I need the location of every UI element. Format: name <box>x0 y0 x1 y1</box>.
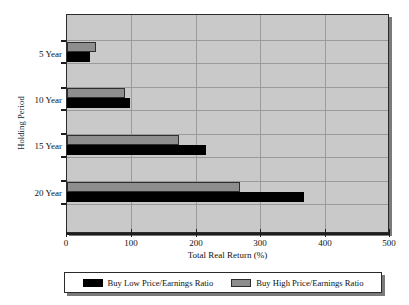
legend-swatch-low-pe-icon <box>83 279 103 287</box>
x-tick-label-200: 200 <box>176 238 216 248</box>
x-tick-mark <box>66 229 67 237</box>
chart-figure: Holding Period 5 Year 10 Year 15 Year 20… <box>0 0 409 305</box>
bar-high-pe-20-year <box>67 182 240 192</box>
y-tick-label-10-year: 10 Year <box>4 95 62 105</box>
gridline-horizontal <box>67 204 388 205</box>
bar-low-pe-20-year <box>67 192 304 202</box>
x-tick-mark <box>196 229 197 237</box>
legend-label-low-pe: Buy Low Price/Earnings Ratio <box>108 278 214 288</box>
y-tick-label-15-year: 15 Year <box>4 141 62 151</box>
y-tick-label-20-year: 20 Year <box>4 188 62 198</box>
bar-high-pe-5-year <box>67 42 96 52</box>
gridline-horizontal <box>67 157 388 158</box>
gridline-horizontal <box>67 40 388 41</box>
bar-low-pe-10-year <box>67 98 130 108</box>
legend-item-high-pe: Buy High Price/Earnings Ratio <box>231 278 363 288</box>
x-tick-mark <box>389 229 390 237</box>
x-tick-label-100: 100 <box>111 238 151 248</box>
gridline-horizontal <box>67 110 388 111</box>
legend-label-high-pe: Buy High Price/Earnings Ratio <box>256 278 363 288</box>
legend-item-low-pe: Buy Low Price/Earnings Ratio <box>83 278 214 288</box>
x-tick-label-0: 0 <box>46 238 86 248</box>
plot-area <box>66 14 389 233</box>
y-tick-label-group: 5 Year 10 Year 15 Year 20 Year <box>0 0 62 232</box>
x-tick-label-500: 500 <box>369 238 409 248</box>
bar-high-pe-10-year <box>67 88 125 98</box>
x-tick-label-400: 400 <box>305 238 345 248</box>
x-axis-title: Total Real Return (%) <box>66 250 389 260</box>
bar-low-pe-15-year <box>67 145 206 155</box>
gridline-vertical-400 <box>325 15 326 232</box>
bar-high-pe-15-year <box>67 135 179 145</box>
gridline-horizontal <box>67 63 388 64</box>
chart-legend: Buy Low Price/Earnings Ratio Buy High Pr… <box>64 272 382 293</box>
bar-low-pe-5-year <box>67 52 90 62</box>
x-tick-label-300: 300 <box>240 238 280 248</box>
x-axis-line <box>66 233 389 235</box>
x-tick-mark <box>325 229 326 237</box>
legend-swatch-high-pe-icon <box>231 279 251 287</box>
y-tick-label-5-year: 5 Year <box>4 49 62 59</box>
x-tick-mark <box>260 229 261 237</box>
x-tick-mark <box>131 229 132 237</box>
